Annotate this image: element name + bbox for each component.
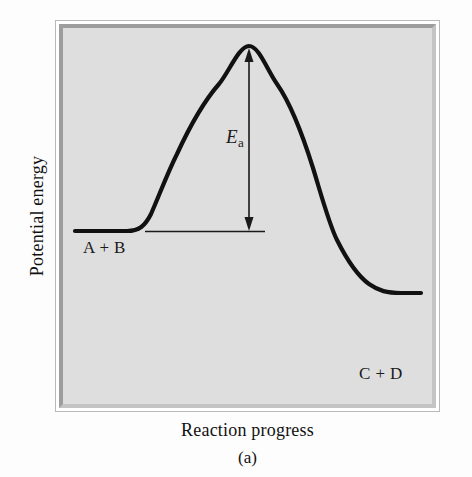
figure-frame-bevel: A + B C + D Ea (59, 24, 436, 408)
product-level-label: C + D (359, 364, 403, 384)
figure-caption: (a) (55, 448, 440, 468)
figure-frame-outer: A + B C + D Ea (55, 20, 440, 412)
reactant-level-label: A + B (83, 238, 126, 258)
activation-energy-subscript: a (238, 135, 244, 150)
reaction-energy-diagram-figure: Potential energy (0, 0, 472, 477)
energy-profile-plot (63, 28, 432, 404)
x-axis-title: Reaction progress (55, 420, 440, 441)
activation-energy-symbol: E (226, 126, 238, 147)
activation-energy-label: Ea (226, 126, 244, 151)
energy-profile-curve-stroke (75, 46, 421, 293)
energy-profile-curve (75, 46, 415, 231)
y-axis-title: Potential energy (24, 20, 50, 412)
activation-energy-arrowhead-up (245, 48, 254, 62)
activation-energy-arrow (245, 48, 254, 231)
plot-area: A + B C + D Ea (63, 28, 432, 404)
activation-energy-arrowhead-down (245, 217, 254, 231)
